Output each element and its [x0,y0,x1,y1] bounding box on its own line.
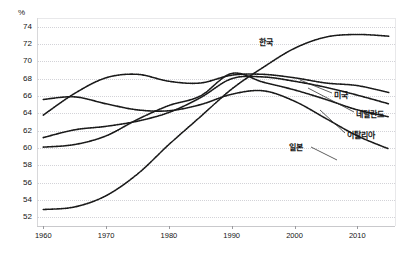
line-chart: % 525456586062646668707274 1960197019801… [0,0,411,278]
series-line-1 [43,34,388,209]
series-label-usa: 미국 [334,89,348,100]
series-line-3 [43,76,388,137]
label-leader-line-3 [320,110,345,133]
label-leader-line-4 [311,147,337,160]
series-label-korea: 한국 [259,36,273,47]
series-label-netherlands: 네덜란드 [356,108,384,119]
series-label-italy: 이탈리아 [347,129,375,140]
series-label-japan: 일본 [289,141,303,152]
